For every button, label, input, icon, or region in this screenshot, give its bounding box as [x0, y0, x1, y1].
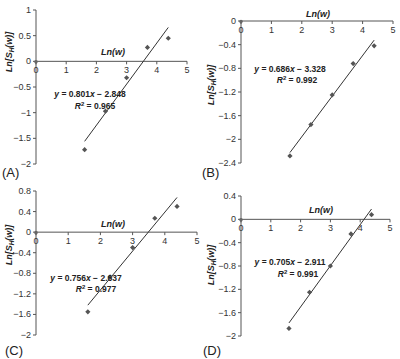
data-point-marker — [286, 326, 291, 331]
panel-label: (C) — [5, 343, 23, 358]
x-tick-label: 3 — [330, 25, 335, 35]
x-tick-label: 1 — [269, 25, 274, 35]
panel-a: 10.50−0.5−1−1.5−2012345Ln(w)Ln[SH(w)]y =… — [2, 5, 190, 180]
y-tick-label: −1.6 — [218, 111, 236, 121]
origin-marker — [34, 60, 38, 64]
figure-canvas: 10.50−0.5−1−1.5−2012345Ln(w)Ln[SH(w)]y =… — [0, 0, 400, 359]
x-tick-label: 4 — [360, 25, 365, 35]
data-point-marker — [287, 153, 292, 158]
y-tick-label: −1.2 — [218, 284, 236, 294]
x-tick-label: 1 — [268, 223, 273, 233]
y-tick-label: 0.8 — [18, 186, 31, 196]
x-tick-label: 5 — [387, 223, 392, 233]
y-tick-label: 0 — [231, 214, 236, 224]
x-tick-label: 5 — [184, 65, 189, 75]
y-tick-label: −2.4 — [218, 158, 236, 168]
r-squared: R2 = 0.965 — [75, 101, 116, 111]
regression-equation: y = 0.756x − 2.637 — [49, 273, 122, 283]
panel-b: 0−0.4−0.8−1.2−1.6−2−2.4012345Ln(w)Ln[SH(… — [202, 9, 396, 180]
data-point-marker — [307, 290, 312, 295]
x-axis-label: Ln(w) — [101, 47, 125, 57]
x-tick-label: 0 — [33, 236, 38, 246]
data-point-marker — [82, 147, 87, 152]
x-tick-label: 1 — [64, 65, 69, 75]
data-point-marker — [174, 204, 179, 209]
data-point-marker — [145, 45, 150, 50]
x-tick-label: 4 — [162, 236, 167, 246]
y-axis-label: Ln[SH(w)] — [206, 64, 217, 106]
x-tick-label: 3 — [130, 236, 135, 246]
y-tick-label: −2 — [21, 330, 31, 340]
y-axis-label: Ln[SH(w)] — [4, 31, 15, 73]
data-point-marker — [348, 231, 353, 236]
data-point-marker — [124, 75, 129, 80]
y-tick-label: 0 — [26, 56, 31, 66]
y-tick-label: 0 — [231, 16, 236, 26]
y-tick-label: −0.5 — [13, 82, 31, 92]
y-tick-label: −0.8 — [218, 261, 236, 271]
trendline — [85, 27, 169, 141]
x-tick-label: 1 — [66, 236, 71, 246]
data-point-marker — [85, 309, 90, 314]
y-tick-label: −1.2 — [13, 289, 31, 299]
x-tick-label: 2 — [94, 65, 99, 75]
regression-equation: y = 0.801x − 2.848 — [53, 89, 126, 99]
y-tick-label: −0.8 — [218, 63, 236, 73]
origin-marker — [34, 231, 38, 235]
y-tick-label: 0.4 — [223, 191, 236, 201]
y-axis-label: Ln[SH(w)] — [206, 244, 217, 286]
x-tick-label: 5 — [194, 236, 199, 246]
x-tick-label: 5 — [390, 25, 395, 35]
x-tick-label: 3 — [328, 223, 333, 233]
y-tick-label: 0.5 — [18, 31, 31, 41]
x-tick-label: 0 — [238, 25, 243, 35]
r-squared: R2 = 0.977 — [76, 284, 117, 294]
r-squared: R2 = 0.992 — [277, 75, 318, 85]
y-tick-label: 1 — [26, 5, 31, 15]
y-tick-label: −1.2 — [218, 87, 236, 97]
panel-label: (B) — [202, 165, 219, 180]
panel-label: (A) — [2, 165, 19, 180]
y-tick-label: 0.4 — [18, 207, 31, 217]
data-point-marker — [152, 216, 157, 221]
data-point-marker — [372, 43, 377, 48]
x-tick-label: 2 — [98, 236, 103, 246]
x-tick-label: 0 — [238, 223, 243, 233]
regression-equation: y = 0.686x − 3.328 — [253, 64, 326, 74]
y-tick-label: −0.4 — [218, 40, 236, 50]
panel-c: 0.80.40−0.4−0.8−1.2−1.6−2012345Ln(w)Ln[S… — [4, 186, 200, 358]
origin-marker — [239, 218, 243, 222]
data-point-marker — [369, 212, 374, 217]
y-tick-label: −2 — [226, 134, 236, 144]
panel-label: (D) — [203, 343, 221, 358]
x-axis-label: Ln(w) — [306, 9, 330, 19]
y-tick-label: −2 — [21, 159, 31, 169]
x-axis-label: Ln(w) — [309, 205, 333, 215]
y-tick-label: −0.8 — [13, 268, 31, 278]
x-tick-label: 0 — [33, 65, 38, 75]
panel-d: 0.40−0.4−0.8−1.2−1.6−2012345Ln(w)Ln[SH(w… — [203, 191, 393, 358]
y-tick-label: −0.4 — [13, 248, 31, 258]
r-squared: R2 = 0.991 — [278, 269, 319, 279]
y-axis-label: Ln[SH(w)] — [4, 224, 15, 266]
y-tick-label: 0 — [26, 227, 31, 237]
y-tick-label: −1.5 — [13, 133, 31, 143]
origin-marker — [239, 20, 243, 24]
y-tick-label: −1 — [21, 108, 31, 118]
x-tick-label: 3 — [124, 65, 129, 75]
x-tick-label: 4 — [154, 65, 159, 75]
y-tick-label: −1.6 — [218, 308, 236, 318]
x-axis-label: Ln(w) — [101, 219, 125, 229]
regression-equation: y = 0.705x − 2.911 — [254, 257, 326, 267]
y-tick-label: −1.6 — [13, 309, 31, 319]
x-tick-label: 2 — [298, 223, 303, 233]
data-point-marker — [166, 36, 171, 41]
y-tick-label: −0.4 — [218, 238, 236, 248]
y-tick-label: −2 — [226, 331, 236, 341]
x-tick-label: 2 — [299, 25, 304, 35]
